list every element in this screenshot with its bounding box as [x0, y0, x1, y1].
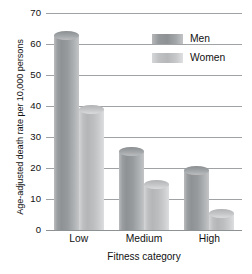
- y-axis-tick-label: 30: [30, 132, 41, 142]
- x-axis-tick-label-medium: Medium: [126, 234, 163, 244]
- bar-high-women: [209, 213, 234, 230]
- y-axis-tick-label: 0: [36, 225, 41, 235]
- bar-cap: [79, 105, 104, 114]
- bar-cap: [184, 166, 209, 175]
- chart-legend: MenWomen: [152, 31, 225, 69]
- x-axis-tick-label-high: High: [199, 234, 220, 244]
- x-axis-tick-label-low: Low: [69, 234, 88, 244]
- bar-high-men: [184, 170, 209, 230]
- x-axis-title: Fitness category: [46, 251, 242, 262]
- y-axis-tick-label: 60: [30, 39, 41, 49]
- y-axis-tick-label: 50: [30, 70, 41, 80]
- legend-item-women: Women: [152, 50, 225, 66]
- x-axis-tick-labels: LowMediumHigh: [46, 234, 242, 248]
- legend-swatch-women: [152, 53, 183, 63]
- y-axis-title: Age-adjusted death rate per 10,000 perso…: [15, 15, 25, 239]
- y-axis-tick-label: 40: [30, 101, 41, 111]
- gridline: 0: [46, 230, 242, 231]
- bar-medium-men: [119, 151, 144, 230]
- bar-chart: Age-adjusted death rate per 10,000 perso…: [0, 0, 252, 274]
- bar-medium-women: [144, 184, 169, 231]
- legend-item-men: Men: [152, 31, 225, 47]
- bar-cap: [144, 180, 169, 189]
- legend-swatch-men: [152, 34, 183, 44]
- bar-cap: [209, 209, 234, 218]
- bar-cap: [119, 147, 144, 156]
- y-axis-tick-label: 20: [30, 163, 41, 173]
- y-axis-tick-label: 70: [30, 8, 41, 18]
- bar-low-men: [54, 35, 79, 230]
- legend-label: Men: [190, 34, 210, 44]
- y-axis-tick-label: 10: [30, 194, 41, 204]
- bar-low-women: [79, 109, 104, 230]
- bar-cap: [54, 31, 79, 40]
- legend-label: Women: [190, 53, 225, 63]
